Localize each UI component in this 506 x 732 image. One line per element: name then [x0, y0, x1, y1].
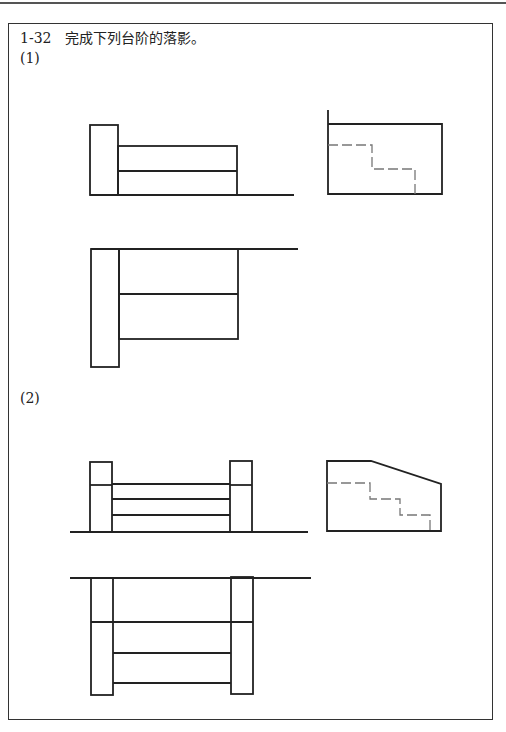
part1-plan	[91, 249, 298, 367]
part2-side-view	[327, 461, 441, 531]
part1-elevation	[90, 125, 294, 195]
part2-plan	[70, 577, 311, 695]
part1-side-view	[328, 110, 442, 194]
part1-hidden-steps	[328, 145, 415, 194]
part2-hidden-steps	[327, 483, 430, 531]
drawings	[0, 0, 506, 732]
part2-elevation	[70, 461, 308, 532]
